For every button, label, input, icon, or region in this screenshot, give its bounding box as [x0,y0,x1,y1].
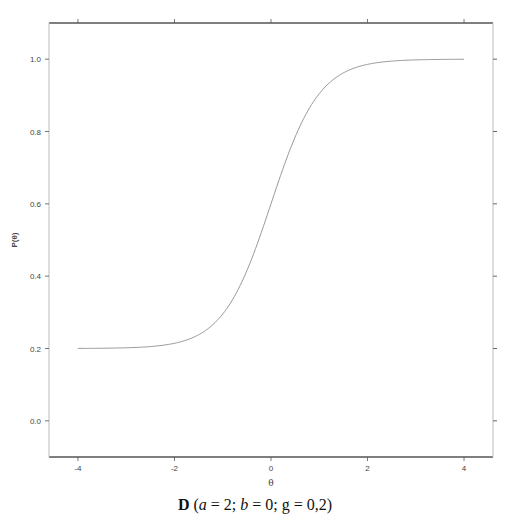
y-axis: 0.00.20.40.60.81.0 [30,55,497,426]
caption-part: = 2; [207,496,240,513]
caption-part: ( [189,496,198,513]
y-tick-label: 0.0 [30,417,42,426]
y-tick-label: 0.8 [30,128,42,137]
figure-caption: D (a = 2; b = 0; g = 0,2) [0,496,510,514]
icc-curve [78,59,464,348]
y-axis-title: P(θ) [10,232,19,247]
caption-letter: D [178,496,190,513]
y-tick-label: 0.4 [30,272,42,281]
caption-part: a [199,496,207,513]
y-tick-label: 0.2 [30,345,42,354]
x-tick-label: -2 [171,464,179,473]
plot-frame [49,23,493,457]
x-tick-label: 2 [365,464,370,473]
x-tick-label: -4 [74,464,82,473]
caption-parameters: (a = 2; b = 0; g = 0,2) [189,496,332,513]
caption-part: = 0; g = 0,2) [248,496,332,513]
curve-layer [78,59,464,348]
x-tick-label: 0 [269,464,274,473]
y-tick-label: 1.0 [30,55,42,64]
x-axis-title: θ [268,478,273,488]
y-tick-label: 0.6 [30,200,42,209]
x-axis: -4-2024 [74,19,466,473]
icc-chart: -4-2024 0.00.20.40.60.81.0 θ P(θ) [0,0,510,490]
x-tick-label: 4 [462,464,467,473]
